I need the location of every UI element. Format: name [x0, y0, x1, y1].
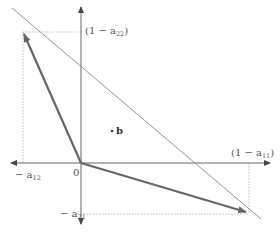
diagram-svg — [0, 0, 280, 234]
label-point-b: b — [116, 126, 123, 136]
label-y-positive: (1 − a22) — [85, 26, 128, 38]
label-x-positive: (1 − a11) — [231, 148, 274, 160]
point-b-dot — [111, 130, 114, 133]
vector-upper-left — [24, 34, 81, 163]
label-x-negative: − a12 — [15, 170, 41, 182]
label-y-negative: − a21 — [60, 209, 86, 221]
guide-lines — [23, 32, 249, 214]
diagonal-line — [12, 8, 261, 219]
vector-lower-right — [81, 163, 246, 212]
diagram-canvas: (1 − a22) (1 − a11) − a12 0 − a21 b — [0, 0, 280, 234]
label-origin: 0 — [73, 168, 79, 178]
vectors — [24, 34, 246, 212]
